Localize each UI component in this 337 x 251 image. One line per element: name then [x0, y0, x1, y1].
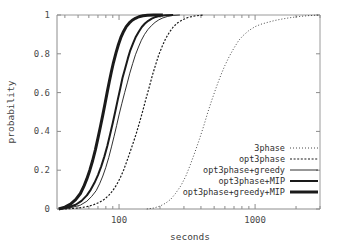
legend-label-opt3phase: opt3phase [239, 154, 285, 164]
x-tick-label: 100 [111, 215, 127, 225]
chart-legend: 3phaseopt3phaseopt3phase+greedyopt3phase… [183, 143, 318, 197]
curve-opt3phase-greedy-MIP [59, 15, 163, 209]
legend-label-opt3phase-greedy-MIP: opt3phase+greedy+MIP [183, 187, 285, 197]
x-axis-tick-labels: 1001000 [111, 215, 266, 225]
chart-figure: 00.20.40.60.81 1001000 3phaseopt3phaseop… [0, 0, 337, 251]
y-tick-label: 0.6 [34, 88, 50, 98]
y-tick-label: 0.2 [34, 165, 50, 175]
x-axis-title: seconds [170, 231, 210, 242]
legend-label-opt3phase-MIP: opt3phase+MIP [218, 176, 285, 186]
y-tick-label: 1 [45, 10, 50, 20]
chart-canvas: 00.20.40.60.81 1001000 3phaseopt3phaseop… [0, 0, 337, 251]
curve-opt3phase-greedy [62, 15, 180, 209]
y-axis-title: probability [5, 80, 16, 143]
x-tick-label: 1000 [244, 215, 266, 225]
y-axis-tick-labels: 00.20.40.60.81 [34, 10, 50, 214]
legend-label-opt3phase-greedy: opt3phase+greedy [203, 165, 285, 175]
curve-opt3phase-MIP [60, 15, 173, 209]
legend-label-3phase: 3phase [254, 143, 285, 153]
y-tick-label: 0.4 [34, 126, 50, 136]
y-tick-label: 0 [45, 204, 50, 214]
y-tick-label: 0.8 [34, 49, 50, 59]
